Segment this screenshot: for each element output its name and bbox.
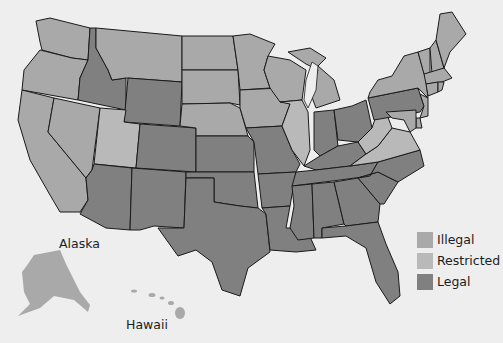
legend: Illegal Restricted Legal xyxy=(417,230,500,293)
state-CT[interactable] xyxy=(426,82,438,96)
state-ND[interactable] xyxy=(182,36,238,70)
swatch-illegal xyxy=(417,232,433,248)
alaska-shape[interactable] xyxy=(18,250,90,316)
legend-label-restricted: Restricted xyxy=(437,253,500,268)
state-NM[interactable] xyxy=(130,168,186,230)
state-FL[interactable] xyxy=(322,222,400,304)
legend-item-restricted: Restricted xyxy=(417,251,500,270)
state-AR[interactable] xyxy=(258,172,296,208)
state-MS[interactable] xyxy=(290,184,314,240)
state-CO[interactable] xyxy=(136,124,196,172)
swatch-legal xyxy=(417,274,433,290)
legend-label-illegal: Illegal xyxy=(437,232,474,247)
hawaii-label: Hawaii xyxy=(126,317,168,332)
legend-item-illegal: Illegal xyxy=(417,230,500,249)
state-RI[interactable] xyxy=(438,82,444,92)
legend-label-legal: Legal xyxy=(437,274,471,289)
alaska-label: Alaska xyxy=(59,236,100,251)
legend-item-legal: Legal xyxy=(417,272,500,291)
state-SD[interactable] xyxy=(182,70,240,105)
state-KS[interactable] xyxy=(196,136,254,172)
hawaii-shape[interactable] xyxy=(131,290,185,320)
state-WY[interactable] xyxy=(124,78,182,126)
swatch-restricted xyxy=(417,253,433,269)
state-DE[interactable] xyxy=(416,118,422,128)
